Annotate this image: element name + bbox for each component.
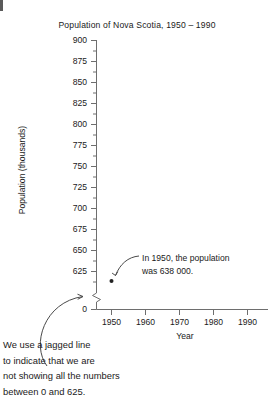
y-tick-label-825: 825 <box>53 98 87 108</box>
y-tick-label-725: 725 <box>53 182 87 192</box>
footnote-line-1: We use a jagged line <box>3 337 193 353</box>
footnote-line-4: between 0 and 625. <box>3 384 193 400</box>
footnote-line-2: to indicate that we are <box>3 353 193 369</box>
y-tick-label-650: 650 <box>53 245 87 255</box>
annotation-line-1: In 1950, the population <box>142 252 274 265</box>
y-tick-label-800: 800 <box>53 119 87 129</box>
data-point-annotation: In 1950, the population was 638 000. <box>142 252 274 278</box>
y-tick-label-700: 700 <box>53 203 87 213</box>
footnote-line-3: not showing all the numbers <box>3 368 193 384</box>
x-ticks <box>112 310 248 316</box>
y-tick-label-875: 875 <box>53 56 87 66</box>
y-tick-label-625: 625 <box>53 266 87 276</box>
chart-page: Population of Nova Scotia, 1950 – 1990 P… <box>0 0 274 409</box>
annotation-leader-line <box>116 256 140 276</box>
data-point-1950[interactable] <box>110 279 114 283</box>
y-tick-label-0: 0 <box>53 304 87 314</box>
axis-break-jagged-line <box>93 293 101 302</box>
y-tick-label-775: 775 <box>53 140 87 150</box>
y-major-ticks <box>91 41 97 310</box>
y-tick-label-900: 900 <box>53 35 87 45</box>
annotation-arrowhead <box>112 272 118 276</box>
x-tick-label-1990: 1990 <box>228 317 268 327</box>
y-tick-label-675: 675 <box>53 224 87 234</box>
y-tick-label-750: 750 <box>53 161 87 171</box>
y-tick-label-850: 850 <box>53 77 87 87</box>
annotation-line-2: was 638 000. <box>142 265 274 278</box>
axis-break-footnote: We use a jagged line to indicate that we… <box>3 337 193 399</box>
